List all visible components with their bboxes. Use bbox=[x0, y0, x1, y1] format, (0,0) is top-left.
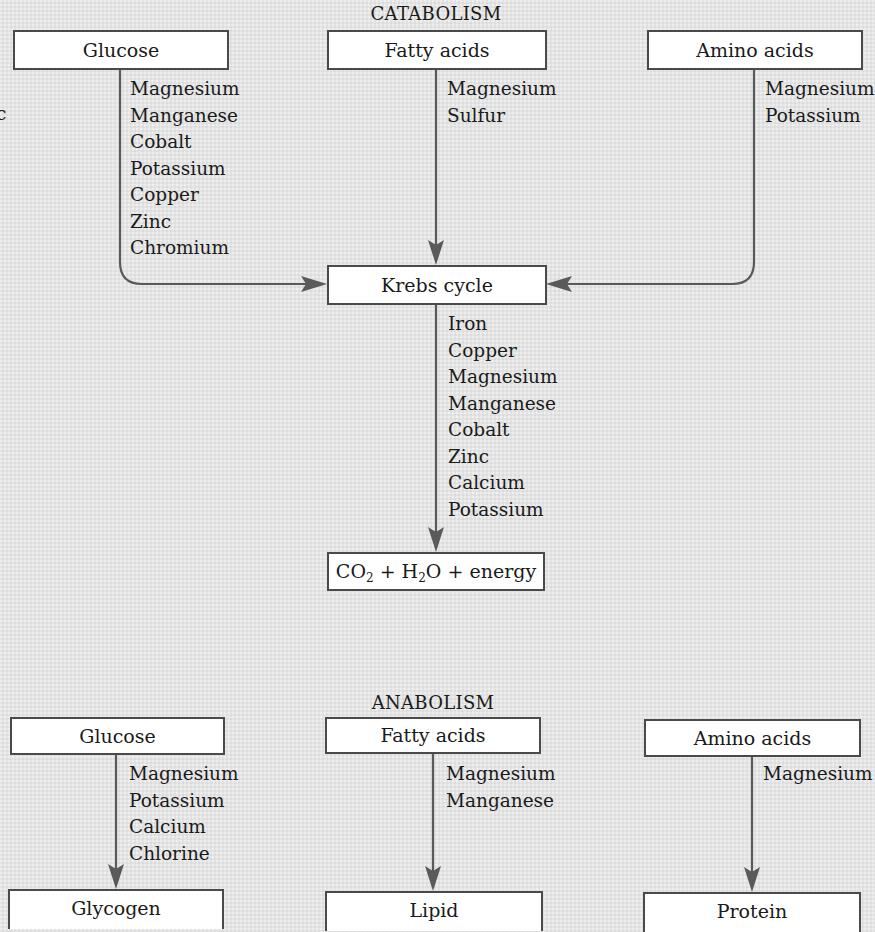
end-product-label: CO2 + H2O + energy bbox=[336, 562, 536, 581]
catabolism-amino-acids-box: Amino acids bbox=[647, 30, 863, 70]
cofactor-item: Cobalt bbox=[448, 417, 558, 444]
amino-acids-catabolism-cofactors: Magnesium Potassium bbox=[765, 76, 875, 129]
cofactor-item: Potassium bbox=[129, 788, 239, 815]
cofactor-item: Zinc bbox=[448, 444, 558, 471]
amino-acids-anabolism-cofactors: Magnesium bbox=[763, 761, 873, 788]
box-label: Amino acids bbox=[696, 41, 814, 60]
glycogen-box: Glycogen bbox=[8, 889, 224, 929]
box-label: Glucose bbox=[83, 41, 160, 60]
glucose-anabolism-cofactors: Magnesium Potassium Calcium Chlorine bbox=[129, 761, 239, 867]
box-label: Amino acids bbox=[694, 729, 812, 748]
cofactor-item: Magnesium bbox=[763, 761, 873, 788]
arrowhead-right-icon bbox=[301, 276, 327, 292]
anabolism-fatty-acids-box: Fatty acids bbox=[325, 717, 541, 754]
krebs-cycle-cofactors: Iron Copper Magnesium Manganese Cobalt Z… bbox=[448, 311, 558, 523]
anabolism-glucose-box: Glucose bbox=[10, 717, 225, 755]
end-product-box: CO2 + H2O + energy bbox=[327, 552, 545, 591]
box-label: Glucose bbox=[79, 727, 156, 746]
cofactor-item: Calcium bbox=[129, 814, 239, 841]
arrowhead-down-icon bbox=[744, 867, 760, 892]
cofactor-item: Calcium bbox=[448, 470, 558, 497]
cofactor-item: Manganese bbox=[448, 391, 558, 418]
cofactor-item: Copper bbox=[130, 182, 240, 209]
cofactor-item: Iron bbox=[448, 311, 558, 338]
cofactor-item: Cobalt bbox=[130, 129, 240, 156]
cofactor-item: Chromium bbox=[130, 235, 240, 262]
arrowhead-left-icon bbox=[546, 276, 572, 292]
box-label: Fatty acids bbox=[380, 726, 485, 745]
box-label: Lipid bbox=[409, 901, 458, 920]
arrowhead-down-icon bbox=[428, 527, 444, 552]
cofactor-item: Magnesium bbox=[129, 761, 239, 788]
cofactor-item: Potassium bbox=[448, 497, 558, 524]
box-label: Protein bbox=[717, 902, 788, 921]
cropped-text-fragment: c bbox=[0, 103, 6, 124]
cofactor-item: Magnesium bbox=[448, 364, 558, 391]
catabolism-glucose-box: Glucose bbox=[13, 30, 229, 70]
fatty-acids-catabolism-cofactors: Magnesium Sulfur bbox=[447, 76, 557, 129]
lipid-box: Lipid bbox=[325, 891, 543, 931]
cofactor-item: Magnesium bbox=[130, 76, 240, 103]
catabolism-title: CATABOLISM bbox=[371, 3, 502, 24]
anabolism-amino-acids-box: Amino acids bbox=[644, 719, 861, 757]
cofactor-item: Manganese bbox=[446, 788, 556, 815]
cofactor-item: Zinc bbox=[130, 209, 240, 236]
cofactor-item: Magnesium bbox=[446, 761, 556, 788]
cofactor-item: Copper bbox=[448, 338, 558, 365]
cofactor-item: Magnesium bbox=[765, 76, 875, 103]
arrowhead-down-icon bbox=[108, 864, 124, 889]
cofactor-item: Chlorine bbox=[129, 841, 239, 868]
catabolism-fatty-acids-box: Fatty acids bbox=[327, 30, 547, 70]
protein-box: Protein bbox=[643, 892, 861, 932]
arrowhead-down-icon bbox=[428, 240, 444, 265]
krebs-cycle-box: Krebs cycle bbox=[327, 265, 547, 305]
cofactor-item: Sulfur bbox=[447, 103, 557, 130]
box-label: Krebs cycle bbox=[381, 276, 493, 295]
cofactor-item: Potassium bbox=[765, 103, 875, 130]
cofactor-item: Potassium bbox=[130, 156, 240, 183]
box-label: Glycogen bbox=[71, 899, 161, 918]
arrow-amino-acids-to-krebs bbox=[552, 69, 754, 284]
anabolism-title: ANABOLISM bbox=[372, 692, 495, 713]
cofactor-item: Magnesium bbox=[447, 76, 557, 103]
fatty-acids-anabolism-cofactors: Magnesium Manganese bbox=[446, 761, 556, 814]
arrowhead-down-icon bbox=[425, 866, 441, 891]
box-label: Fatty acids bbox=[384, 41, 489, 60]
glucose-catabolism-cofactors: Magnesium Manganese Cobalt Potassium Cop… bbox=[130, 76, 240, 262]
cofactor-item: Manganese bbox=[130, 103, 240, 130]
